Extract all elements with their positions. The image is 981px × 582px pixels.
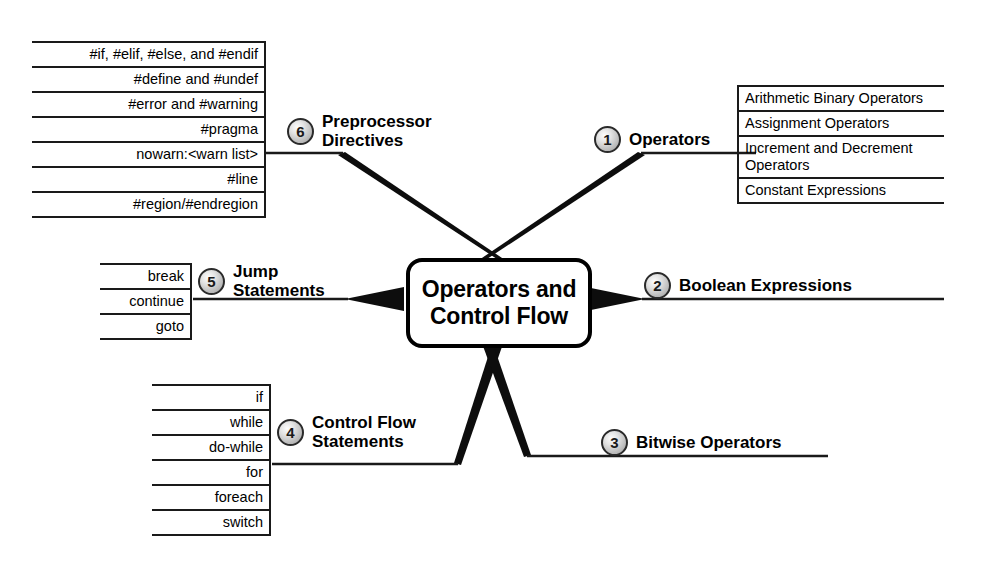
list-item[interactable]: continue — [100, 288, 190, 313]
subtable-control-flow-statements: if while do-while for foreach switch — [152, 384, 271, 536]
branch-label-1[interactable]: 1 Operators — [594, 126, 710, 153]
list-item[interactable]: while — [152, 409, 269, 434]
branch-number-badge-1: 1 — [594, 126, 621, 153]
branch-wedge-1 — [476, 152, 645, 262]
subitem-label: continue — [129, 293, 184, 310]
subitem-label: nowarn:<warn list> — [136, 146, 258, 163]
branch-title-6: Preprocessor Directives — [322, 112, 432, 150]
branch-number-badge-3: 3 — [601, 429, 628, 456]
list-item[interactable]: #pragma — [32, 116, 264, 141]
list-item[interactable]: #line — [32, 166, 264, 191]
branch-wedge-4 — [454, 338, 505, 465]
subitem-label: if — [256, 389, 263, 406]
branch-title-2: Boolean Expressions — [679, 276, 852, 295]
list-item[interactable]: nowarn:<warn list> — [32, 141, 264, 166]
branch-label-6[interactable]: 6 Preprocessor Directives — [287, 112, 432, 150]
center-node[interactable]: Operators and Control Flow — [406, 258, 592, 348]
branch-number-badge-4: 4 — [277, 419, 304, 446]
subitem-label: Arithmetic Binary Operators — [745, 90, 923, 107]
list-item[interactable]: break — [100, 263, 190, 288]
subitem-label: #region/#endregion — [133, 196, 258, 213]
list-item[interactable]: Assignment Operators — [739, 110, 944, 135]
center-node-title: Operators and Control Flow — [410, 276, 588, 329]
list-item[interactable]: goto — [100, 313, 190, 340]
branch-number-badge-2: 2 — [644, 272, 671, 299]
mind-map-canvas: Operators and Control Flow 6 Preprocesso… — [0, 0, 981, 582]
subitem-label: goto — [156, 318, 184, 335]
subitem-label: switch — [223, 514, 263, 531]
list-item[interactable]: #define and #undef — [32, 66, 264, 91]
subitem-label: Constant Expressions — [745, 182, 886, 199]
branch-wedge-2 — [586, 287, 645, 311]
list-item[interactable]: for — [152, 459, 269, 484]
branch-title-4: Control Flow Statements — [312, 413, 416, 451]
subitem-label: break — [148, 268, 184, 285]
branch-label-2[interactable]: 2 Boolean Expressions — [644, 272, 852, 299]
branch-label-4[interactable]: 4 Control Flow Statements — [277, 413, 416, 451]
branch-title-5: Jump Statements — [233, 262, 325, 300]
branch-wedge-3 — [480, 338, 531, 457]
branch-title-1: Operators — [629, 130, 710, 149]
subitem-label: for — [246, 464, 263, 481]
subtable-operators: Arithmetic Binary Operators Assignment O… — [737, 85, 944, 204]
subitem-label: do-while — [209, 439, 263, 456]
list-item[interactable]: do-while — [152, 434, 269, 459]
subitem-label: foreach — [215, 489, 263, 506]
subitem-label: Increment and Decrement Operators — [745, 140, 938, 174]
branch-wedge-6 — [338, 152, 508, 262]
subitem-label: #if, #elif, #else, and #endif — [90, 46, 258, 63]
subitem-label: #error and #warning — [128, 96, 258, 113]
list-item[interactable]: if — [152, 384, 269, 409]
list-item[interactable]: switch — [152, 509, 269, 536]
list-item[interactable]: foreach — [152, 484, 269, 509]
subitem-label: #define and #undef — [134, 71, 258, 88]
subitem-label: Assignment Operators — [745, 115, 889, 132]
branch-label-5[interactable]: 5 Jump Statements — [198, 262, 325, 300]
branch-title-3: Bitwise Operators — [636, 433, 782, 452]
list-item[interactable]: #region/#endregion — [32, 191, 264, 218]
list-item[interactable]: #if, #elif, #else, and #endif — [32, 41, 264, 66]
subtable-jump-statements: break continue goto — [100, 263, 192, 340]
list-item[interactable]: Constant Expressions — [739, 177, 944, 204]
list-item[interactable]: Increment and Decrement Operators — [739, 135, 944, 177]
subitem-label: #pragma — [201, 121, 258, 138]
subitem-label: #line — [227, 171, 258, 188]
branch-wedge-5 — [345, 287, 404, 311]
subitem-label: while — [230, 414, 263, 431]
branch-label-3[interactable]: 3 Bitwise Operators — [601, 429, 782, 456]
list-item[interactable]: #error and #warning — [32, 91, 264, 116]
list-item[interactable]: Arithmetic Binary Operators — [739, 85, 944, 110]
branch-number-badge-5: 5 — [198, 268, 225, 295]
branch-number-badge-6: 6 — [287, 118, 314, 145]
subtable-preprocessor-directives: #if, #elif, #else, and #endif #define an… — [32, 41, 266, 218]
